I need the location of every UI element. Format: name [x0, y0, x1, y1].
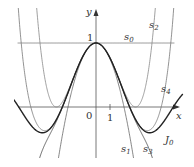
- x-axis-label: x: [176, 110, 182, 121]
- s2-label: s2: [149, 19, 159, 32]
- y-tick-label-1: 1: [87, 32, 93, 43]
- s3-label: s3: [143, 143, 153, 156]
- x-tick-label-1: 1: [107, 112, 113, 123]
- y-axis-label: y: [85, 6, 92, 17]
- y-axis-arrow-icon: [94, 9, 99, 16]
- s1-label: s1: [121, 143, 131, 156]
- j0-label: J0: [163, 134, 174, 147]
- s4-label: s4: [161, 83, 171, 96]
- origin-label: 0: [86, 110, 92, 121]
- bessel-partial-sums-diagram: y x 0 1 1 s0 s2 s4 J0 s1 s3: [0, 0, 194, 167]
- s0-label: s0: [124, 31, 134, 44]
